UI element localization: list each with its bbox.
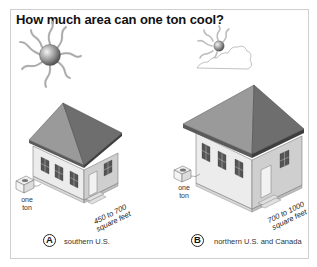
unit-label-a: one ton [20,196,34,212]
unit-label-b-line2: ton [177,192,191,200]
unit-label-a-line2: ton [20,204,34,212]
unit-label-b-line1: one [177,184,191,192]
badge-a: A [43,234,56,247]
region-label-a: southern U.S. [64,237,110,246]
house-b-large [174,85,304,212]
full-sun-icon [20,22,81,87]
unit-label-b: one ton [177,184,191,200]
region-label-b: northern U.S. and Canada [214,237,302,246]
unit-label-a-line1: one [20,196,34,204]
badge-b: B [191,234,204,247]
house-a-small [16,103,122,204]
sun-behind-cloud-icon [197,26,252,69]
